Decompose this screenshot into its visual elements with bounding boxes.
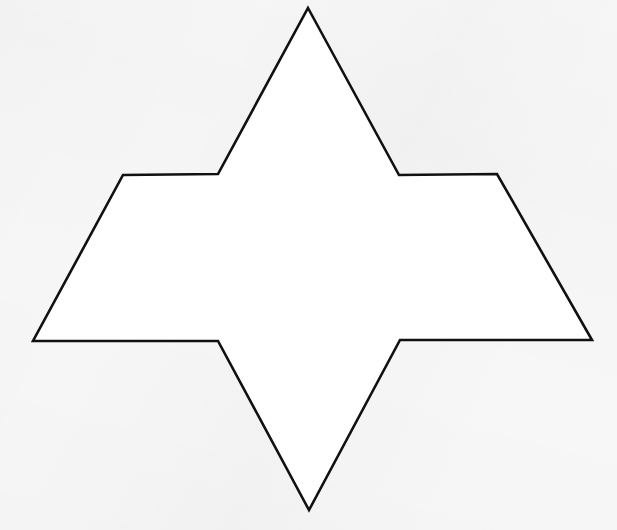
- six-pointed-star-path: [33, 8, 592, 510]
- drawing-canvas: Six-Pointed Star Outline: [0, 0, 617, 530]
- star-figure: Six-Pointed Star Outline: [0, 0, 617, 530]
